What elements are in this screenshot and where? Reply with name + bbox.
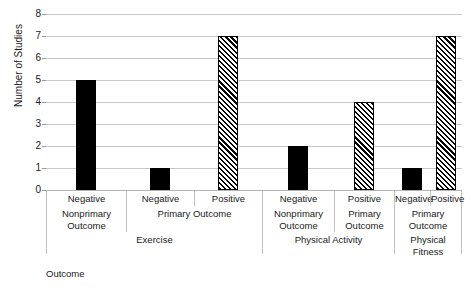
direction-cell-3: Positive: [194, 191, 262, 206]
y-tickmark-6: [42, 58, 46, 59]
direction-cell-2: Negative: [126, 191, 194, 206]
y-tickmark-4: [42, 102, 46, 103]
direction-cell-4: Negative: [262, 191, 334, 206]
y-tick-label-0: 0: [35, 185, 41, 195]
bar-1: [76, 80, 96, 190]
outcome-cell-4: Primary Outcome: [334, 206, 394, 232]
gridline-6: [46, 58, 462, 59]
intervention-row-wrap-tail: Outcome: [46, 268, 85, 280]
intervention-cell-3: Physical Fitness: [394, 232, 462, 254]
y-tick-label-5: 5: [35, 75, 41, 85]
gridline-5: [46, 80, 462, 81]
bar-7: [436, 36, 456, 190]
direction-cell-6: Negative: [394, 191, 430, 206]
gridline-1: [46, 168, 462, 169]
y-tick-label-6: 6: [35, 53, 41, 63]
plot-area: 012345678: [46, 14, 462, 190]
category-axis-table: NegativeNegativePositiveNegativePositive…: [46, 190, 462, 254]
outcome-cell-3: Nonprimary Outcome: [262, 206, 334, 232]
y-tickmark-3: [42, 124, 46, 125]
direction-cell-7: Positive: [430, 191, 462, 206]
y-tickmark-2: [42, 146, 46, 147]
outcome-cell-2: Primary Outcome: [126, 206, 262, 232]
direction-cell-5: Positive: [334, 191, 394, 206]
y-tick-label-8: 8: [35, 9, 41, 19]
y-tick-label-7: 7: [35, 31, 41, 41]
gridline-8: [46, 14, 462, 15]
gridline-3: [46, 124, 462, 125]
y-tick-label-3: 3: [35, 119, 41, 129]
y-tickmark-7: [42, 36, 46, 37]
intervention-row: Outcome ExercisePhysical ActivityPhysica…: [46, 232, 462, 254]
gridline-4: [46, 102, 462, 103]
direction-row: NegativeNegativePositiveNegativePositive…: [46, 191, 462, 206]
y-tickmark-8: [42, 14, 46, 15]
intervention-cell-2: Physical Activity: [262, 232, 394, 254]
bar-2: [150, 168, 170, 190]
y-tick-label-4: 4: [35, 97, 41, 107]
gridline-7: [46, 36, 462, 37]
y-tickmark-5: [42, 80, 46, 81]
intervention-cell-1: Exercise: [46, 232, 262, 254]
y-tickmark-1: [42, 168, 46, 169]
y-tick-label-1: 1: [35, 163, 41, 173]
bar-chart-figure: Number of Studies 012345678 NegativeNega…: [0, 0, 476, 294]
direction-cell-1: Negative: [46, 191, 126, 206]
outcome-cell-5: Primary Outcome: [394, 206, 462, 232]
bar-3: [218, 36, 238, 190]
y-tick-label-2: 2: [35, 141, 41, 151]
outcome-cell-1: Nonprimary Outcome: [46, 206, 126, 232]
bar-6: [402, 168, 422, 190]
bar-5: [354, 102, 374, 190]
bar-4: [288, 146, 308, 190]
gridline-2: [46, 146, 462, 147]
outcome-type-row: Nonprimary OutcomePrimary OutcomeNonprim…: [46, 206, 462, 232]
y-axis-title: Number of Studies: [13, 1, 24, 131]
